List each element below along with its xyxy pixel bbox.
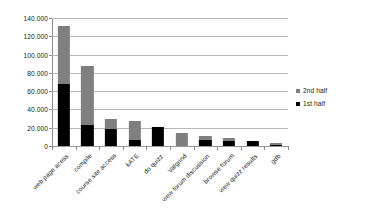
bar-slot: [76, 18, 100, 146]
bar-stack[interactable]: [152, 127, 164, 146]
y-axis-tick-label: 40.000: [2, 106, 48, 113]
x-axis-category-label: web page acess: [31, 152, 70, 191]
bar-segment-1st-half[interactable]: [58, 84, 70, 146]
y-axis-tick-label: 100.000: [2, 51, 48, 58]
y-axis-tick: [49, 109, 52, 110]
y-axis-tick: [49, 146, 52, 147]
legend-swatch-icon: [296, 102, 300, 106]
y-axis-tick: [49, 18, 52, 19]
y-axis-tick: [49, 36, 52, 37]
bar-slot: [123, 18, 147, 146]
bar-slot: [146, 18, 170, 146]
bar-segment-1st-half[interactable]: [81, 125, 93, 146]
y-axis-tick-label: 140.000: [2, 15, 48, 22]
bar-segment-2nd-half[interactable]: [105, 119, 117, 129]
y-axis-tick-label: 0: [2, 143, 48, 150]
bar-segment-2nd-half[interactable]: [128, 121, 140, 139]
y-axis-tick-label: 80.000: [2, 69, 48, 76]
bar-slot: [264, 18, 288, 146]
legend-label: 1st half: [303, 100, 325, 107]
legend-swatch-icon: [296, 89, 300, 93]
bar-stack[interactable]: [199, 136, 211, 146]
bar-stack[interactable]: [58, 26, 70, 146]
y-axis-tick: [49, 128, 52, 129]
bar-segment-2nd-half[interactable]: [81, 66, 93, 125]
legend: 2nd half1st half: [296, 85, 366, 111]
bar-segment-1st-half[interactable]: [152, 127, 164, 146]
plot-area: [52, 18, 288, 146]
bar-slot: [99, 18, 123, 146]
x-axis-labels: web page acesscompilecourse site accessk…: [0, 150, 369, 218]
bar-slot: [170, 18, 194, 146]
x-axis-category-label: kATE: [124, 152, 140, 168]
x-axis-category-label: do quizz: [142, 152, 164, 174]
bar-segment-1st-half[interactable]: [105, 129, 117, 146]
y-axis-tick: [49, 55, 52, 56]
bar-stack[interactable]: [176, 133, 188, 146]
x-axis-category-label: Valgrind: [166, 152, 188, 174]
bar-slot: [194, 18, 218, 146]
x-axis-category-label: gdb: [269, 152, 282, 165]
bar-stack[interactable]: [128, 121, 140, 146]
y-axis-tick-label: 20.000: [2, 124, 48, 131]
bar-segment-2nd-half[interactable]: [58, 26, 70, 84]
legend-item[interactable]: 1st half: [296, 98, 366, 109]
bar-segment-2nd-half[interactable]: [176, 133, 188, 146]
y-axis-labels: 140.000120.000100.00080.00060.00040.0002…: [0, 18, 48, 146]
bar-stack[interactable]: [223, 138, 235, 146]
y-axis-tick-label: 120.000: [2, 33, 48, 40]
y-axis-tick: [49, 73, 52, 74]
y-axis-tick: [49, 91, 52, 92]
bar-slot: [241, 18, 265, 146]
bar-slot: [217, 18, 241, 146]
x-axis-category-label: compile: [72, 152, 93, 173]
legend-label: 2nd half: [303, 87, 327, 94]
y-axis-tick-label: 60.000: [2, 88, 48, 95]
legend-item[interactable]: 2nd half: [296, 85, 366, 96]
bar-slot: [52, 18, 76, 146]
bar-stack[interactable]: [105, 119, 117, 146]
bar-stack[interactable]: [81, 66, 93, 146]
bar-chart: 140.000120.000100.00080.00060.00040.0002…: [0, 0, 369, 218]
